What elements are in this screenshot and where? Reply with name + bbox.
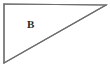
triangle-figure: B — [0, 0, 110, 83]
triangle-region-label-b: B — [27, 19, 34, 30]
triangle-canvas — [0, 0, 110, 83]
